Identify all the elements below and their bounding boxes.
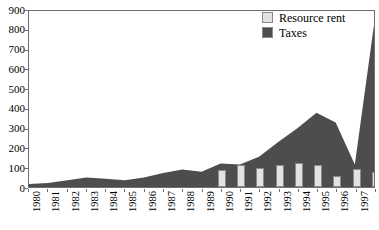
x-axis: 1980198119821983198419851986198719881989…: [28, 189, 375, 230]
x-axis-tick-mark: [298, 189, 299, 192]
x-axis-tick-label: 1986: [148, 191, 159, 212]
legend-swatch-taxes: [262, 27, 273, 38]
bar-resource-rent: [256, 168, 264, 187]
x-axis-tick-mark: [375, 189, 376, 192]
x-axis-tick-label: 1991: [244, 191, 255, 212]
x-axis-tick-mark: [105, 189, 106, 192]
x-axis-tick-mark: [279, 189, 280, 192]
bar-resource-rent: [314, 165, 322, 187]
x-axis-tick-mark: [163, 189, 164, 192]
bar-resource-rent: [333, 176, 341, 187]
x-axis-tick-label: 1992: [263, 191, 274, 212]
x-axis-tick-mark: [182, 189, 183, 192]
legend-label-resource-rent: Resource rent: [279, 12, 345, 24]
x-axis-tick-label: 1996: [340, 191, 351, 212]
legend-item-taxes[interactable]: Taxes: [262, 26, 345, 39]
chart-container: 0100200300400500600700800900 Resource re…: [0, 0, 379, 230]
x-axis-tick-label: 1995: [321, 191, 332, 212]
x-axis-tick-label: 1980: [32, 191, 43, 212]
x-axis-tick-label: 1989: [206, 191, 217, 212]
x-axis-tick-label: 1983: [90, 191, 101, 212]
y-axis: 0100200300400500600700800900: [0, 10, 28, 188]
bar-resource-rent: [295, 163, 303, 187]
legend-label-taxes: Taxes: [279, 27, 307, 39]
x-axis-tick-label: 1981: [51, 191, 62, 212]
bar-resource-rent: [372, 172, 375, 187]
x-axis-tick-mark: [336, 189, 337, 192]
x-axis-tick-label: 1985: [128, 191, 139, 212]
x-axis-tick-mark: [259, 189, 260, 192]
x-axis-tick-mark: [47, 189, 48, 192]
bar-resource-rent: [218, 170, 226, 187]
x-axis-tick-label: 1988: [186, 191, 197, 212]
x-axis-tick-mark: [144, 189, 145, 192]
x-axis-tick-label: 1987: [167, 191, 178, 212]
x-axis-tick-mark: [28, 189, 29, 192]
bar-resource-rent: [237, 165, 245, 187]
x-axis-tick-mark: [67, 189, 68, 192]
x-axis-tick-label: 1990: [225, 191, 236, 212]
x-axis-tick-label: 1982: [71, 191, 82, 212]
x-axis-tick-mark: [317, 189, 318, 192]
x-axis-tick-mark: [86, 189, 87, 192]
bar-resource-rent: [276, 165, 284, 187]
x-axis-tick-label: 1993: [283, 191, 294, 212]
x-axis-tick-mark: [202, 189, 203, 192]
x-axis-tick-mark: [221, 189, 222, 192]
x-axis-tick-mark: [356, 189, 357, 192]
legend-swatch-resource-rent: [262, 12, 273, 23]
chart-legend: Resource rent Taxes: [262, 11, 345, 39]
x-axis-tick-mark: [124, 189, 125, 192]
bar-resource-rent: [353, 169, 361, 187]
x-axis-tick-label: 1997: [360, 191, 371, 212]
x-axis-tick-mark: [240, 189, 241, 192]
x-axis-tick-label: 1994: [302, 191, 313, 212]
legend-item-resource-rent[interactable]: Resource rent: [262, 11, 345, 24]
x-axis-tick-label: 1984: [109, 191, 120, 212]
